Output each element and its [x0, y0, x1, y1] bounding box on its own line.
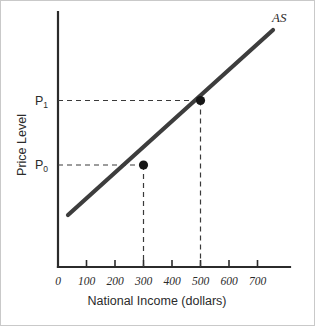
- data-point-p1: [196, 96, 205, 105]
- x-tick-label-500: 500: [192, 275, 210, 287]
- y-label-p1-subscript: 1: [43, 100, 48, 110]
- x-tick-label-300: 300: [134, 275, 153, 287]
- y-label-p1-base: P: [35, 94, 43, 108]
- x-tick-label-100: 100: [78, 275, 96, 287]
- as-curve-label: AS: [271, 10, 287, 25]
- y-axis-title: Price Level: [15, 114, 29, 176]
- y-label-p0: P0: [35, 158, 48, 174]
- x-tick-label-200: 200: [106, 275, 124, 287]
- x-tick-label-400: 400: [163, 275, 181, 287]
- y-label-p0-subscript: 0: [43, 164, 48, 174]
- as-curve-line: [68, 30, 273, 215]
- data-point-p0: [139, 160, 148, 169]
- y-label-p1: P1: [35, 94, 48, 110]
- x-tick-label-700: 700: [249, 275, 267, 287]
- aggregate-supply-chart-figure: 0 100 200 300 400 500 600 700 AS P1 P0 P…: [0, 0, 317, 328]
- chart-plot-area: 0 100 200 300 400 500 600 700 AS P1 P0 P…: [0, 0, 317, 328]
- x-tick-label-0: 0: [55, 275, 61, 287]
- y-label-p0-base: P: [35, 158, 43, 172]
- x-tick-label-600: 600: [220, 275, 238, 287]
- x-axis-title: National Income (dollars): [88, 294, 227, 308]
